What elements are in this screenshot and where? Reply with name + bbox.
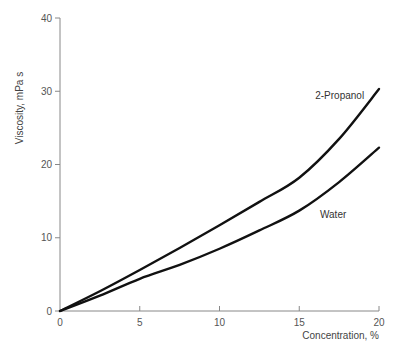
series-line-2-propanol	[60, 89, 379, 311]
x-tick-label: 0	[57, 317, 63, 328]
y-tick-label: 40	[41, 13, 53, 24]
x-tick-label: 10	[214, 317, 226, 328]
x-tick-label: 20	[373, 317, 385, 328]
x-axis-label: Concentration, %	[302, 330, 379, 341]
y-tick-label: 20	[41, 159, 53, 170]
series-lines: 2-PropanolWater	[60, 89, 379, 311]
x-tick-label: 5	[137, 317, 143, 328]
x-tick-label: 15	[294, 317, 306, 328]
y-axis-label: Viscosity, mPa s	[14, 72, 25, 144]
x-axis: 05101520	[57, 306, 385, 328]
series-label: Water	[320, 209, 347, 220]
y-tick-label: 30	[41, 86, 53, 97]
series-label: 2-Propanol	[315, 90, 364, 101]
y-tick-label: 10	[41, 232, 53, 243]
y-axis: 010203040	[41, 13, 60, 317]
y-tick-label: 0	[46, 306, 52, 317]
viscosity-chart: 010203040 05101520 2-PropanolWater Visco…	[0, 0, 396, 358]
